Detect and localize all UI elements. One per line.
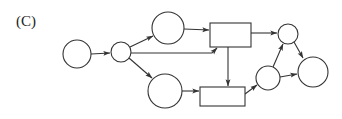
place-p3 — [152, 12, 184, 44]
place-p2 — [111, 42, 131, 62]
arc-p3-t1 — [184, 29, 209, 30]
arc-p5-p7 — [294, 42, 303, 58]
place-p6 — [256, 66, 280, 90]
arc-p2-t1 — [131, 48, 217, 53]
arc-p2-p4 — [129, 58, 152, 78]
places — [63, 12, 328, 108]
arc-p6-p5 — [273, 44, 283, 67]
transitions — [200, 23, 251, 106]
place-p1 — [63, 40, 91, 68]
arc-p1-p2 — [91, 53, 110, 54]
place-p5 — [278, 24, 298, 44]
arc-p2-p3 — [130, 36, 153, 47]
transition-t2 — [200, 87, 245, 106]
arc-p6-p7 — [280, 74, 297, 77]
petri-net-diagram — [0, 0, 342, 119]
place-p7 — [298, 57, 328, 87]
arc-t2-p6 — [245, 85, 257, 94]
transition-t1 — [210, 23, 251, 47]
place-p4 — [148, 74, 182, 108]
